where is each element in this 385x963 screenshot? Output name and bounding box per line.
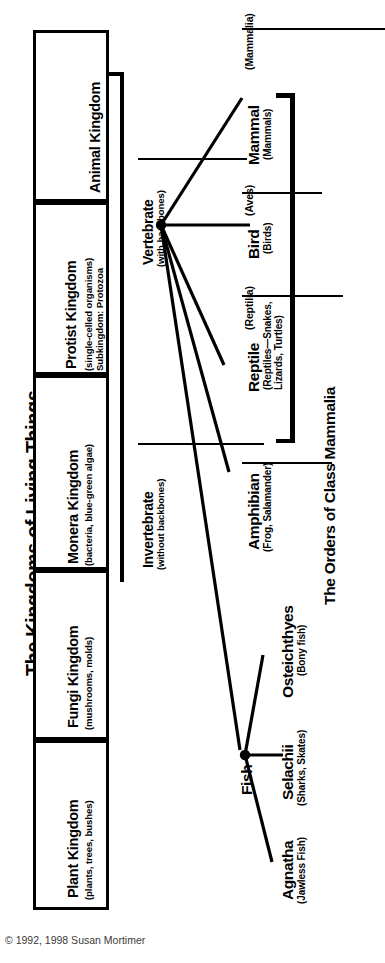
- amphibian-underline: [242, 462, 332, 464]
- kingdom-name-plant: Plant Kingdom: [66, 800, 81, 898]
- kingdom-sub-protist: (single-celled organisms)Subkingdom: Pro…: [84, 221, 105, 371]
- vertebrate-underline: [138, 158, 247, 160]
- mammal-underline: [242, 28, 385, 30]
- kingdom-box-animal[interactable]: Animal Kingdom: [33, 30, 109, 202]
- class-sub-agnatha: (Jawless Fish): [297, 837, 307, 904]
- vertebrate-invertebrate-bracket: [120, 72, 124, 582]
- class-name-selachii: Selachii: [280, 745, 296, 800]
- class-name-bird: Bird: [246, 230, 262, 259]
- class-sci-mammal: (Mammalia): [244, 13, 255, 70]
- kingdom-sub-monera: (bacteria, blue-green algae): [84, 444, 94, 566]
- kingdom-name-protist: Protist Kingdom: [64, 261, 79, 369]
- kingdom-box-fungi[interactable]: Fungi Kingdom (mushrooms, molds): [33, 570, 109, 740]
- class-sci-reptile: (Reptilia): [244, 286, 255, 330]
- class-sub-selachii: (Sharks, Skates): [297, 730, 307, 806]
- kingdom-name-fungi: Fungi Kingdom: [66, 626, 81, 728]
- kingdom-box-monera[interactable]: Monera Kingdom (bacteria, blue-green alg…: [33, 375, 109, 570]
- group-sub-invertebrate: (without backbones): [156, 479, 166, 570]
- class-sub-osteichthyes: (Bony fish): [297, 625, 307, 676]
- mammalia-bracket-label: The Orders of Class Mammalia: [322, 387, 338, 605]
- class-sub-mammal: (Mammals): [263, 109, 273, 160]
- kingdom-box-protist[interactable]: Protist Kingdom (single-celled organisms…: [33, 202, 109, 375]
- group-label-invertebrate: Invertebrate: [141, 491, 155, 568]
- class-name-mammal: Mammal: [246, 105, 262, 165]
- invertebrate-underline: [138, 443, 264, 445]
- fish-node: [240, 750, 250, 760]
- class-name-agnatha: Agnatha: [280, 841, 296, 900]
- group-label-vertebrate: Vertebrate: [141, 200, 155, 265]
- kingdom-box-plant[interactable]: Plant Kingdom (plants, trees, bushes): [33, 740, 109, 910]
- class-name-fish: Fish: [239, 765, 255, 795]
- copyright-notice: © 1992, 1998 Susan Mortimer: [5, 934, 145, 946]
- class-name-amphibian: Amphibian: [246, 474, 262, 550]
- class-sub-amphibian: (Frog, Salamander): [263, 463, 273, 552]
- group-sub-vertebrate: (with backbones): [156, 190, 166, 267]
- kingdom-sub-fungi: (mushrooms, molds): [84, 637, 94, 730]
- class-name-reptile: Reptile: [246, 343, 262, 392]
- kingdom-name-animal: Animal Kingdom: [88, 82, 103, 193]
- kingdom-name-monera: Monera Kingdom: [66, 450, 81, 564]
- class-name-osteichthyes: Osteichthyes: [280, 605, 296, 698]
- mammalia-bracket-stem: [290, 93, 295, 443]
- bird-underline: [242, 192, 322, 194]
- class-sub-bird: (Birds): [263, 222, 273, 254]
- kingdom-sub-plant: (plants, trees, bushes): [84, 800, 94, 900]
- class-sub-reptile: (Reptiles—Snakes,Lizards, Turtles): [262, 290, 284, 390]
- mammalia-bracket-bottom: [276, 439, 294, 444]
- class-sci-bird: (Aves): [244, 185, 255, 216]
